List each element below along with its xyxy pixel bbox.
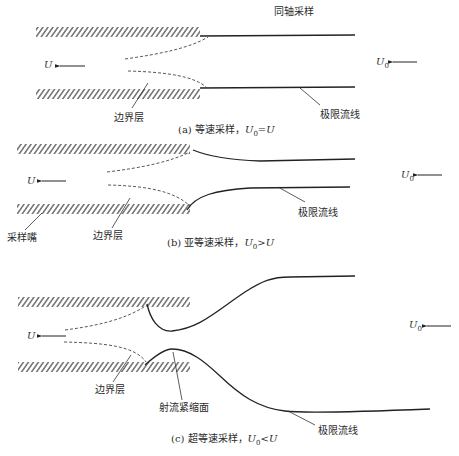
limit-streamline-leader (300, 88, 320, 105)
caption-inlet-velocity: U (266, 124, 274, 135)
caption-relation: < (261, 433, 269, 444)
limit-streamline-top (193, 150, 355, 161)
panel-b (17, 144, 442, 230)
coaxial-sampling-label: 同轴采样 (274, 3, 314, 18)
boundary-layer-label: 边界层 (114, 109, 144, 124)
free-velocity-label: U0 (409, 319, 422, 333)
free-velocity-subscript: 0 (409, 175, 413, 183)
limit-streamline-label: 极限流线 (318, 422, 358, 437)
caption-free-velocity: U (244, 237, 252, 248)
limit-streamline-label: 极限流线 (320, 106, 360, 121)
limit-streamline-leader (278, 187, 305, 202)
caption-prefix: (c) 超等速采样， (171, 433, 248, 444)
caption-inlet-velocity: U (266, 237, 274, 248)
inlet-velocity-symbol: U (44, 59, 52, 70)
caption-relation: > (257, 237, 265, 248)
boundary-layer-label: 边界层 (95, 381, 125, 396)
nozzle-label: 采样嘴 (7, 229, 37, 244)
inlet-velocity-label: U (44, 59, 52, 70)
limit-streamline-bottom (200, 87, 355, 88)
boundary-layer-bottom (64, 342, 146, 362)
panel-a (36, 27, 417, 108)
free-velocity-subscript: 0 (417, 325, 421, 333)
boundary-layer-bottom (108, 185, 190, 206)
inlet-velocity-label: U (27, 330, 35, 341)
nozzle-leader (25, 213, 42, 230)
boundary-layer-label: 边界层 (93, 227, 123, 242)
caption-a: (a) 等速采样，U0=U (178, 121, 275, 138)
boundary-layer-bottom (128, 71, 207, 88)
caption-inlet-velocity: U (269, 433, 277, 444)
caption-relation: = (258, 124, 266, 135)
caption-prefix: (a) 等速采样， (178, 124, 245, 135)
caption-c: (c) 超等速采样，U0<U (171, 430, 277, 447)
caption-free-velocity: U (248, 433, 256, 444)
caption-prefix: (b) 亚等速采样， (167, 237, 244, 248)
limit-streamline-top (200, 35, 355, 36)
inlet-velocity-label: U (27, 175, 35, 186)
free-velocity-label: U0 (376, 56, 389, 70)
nozzle-wall-top (17, 144, 190, 154)
inlet-velocity-symbol: U (27, 330, 35, 341)
free-velocity-subscript: 0 (384, 62, 388, 70)
limit-streamline-leader (288, 411, 315, 425)
nozzle-wall-bottom (36, 89, 200, 99)
caption-b: (b) 亚等速采样，U0>U (167, 234, 274, 251)
nozzle-wall-bottom (18, 362, 190, 372)
sampling-diagram (0, 0, 459, 456)
boundary-layer-top (107, 152, 190, 172)
nozzle-wall-top (36, 27, 200, 37)
nozzle-wall-bottom (17, 204, 190, 214)
panel-c (18, 276, 451, 425)
boundary-layer-top (125, 37, 208, 59)
vena-contracta-label: 射流紧缩面 (159, 399, 209, 414)
nozzle-wall-top (18, 297, 190, 307)
free-velocity-label: U0 (401, 169, 414, 183)
vena-contracta-leader (173, 352, 182, 400)
inlet-velocity-symbol: U (27, 175, 35, 186)
limit-streamline-label: 极限流线 (298, 204, 338, 219)
boundary-layer-top (65, 305, 147, 330)
